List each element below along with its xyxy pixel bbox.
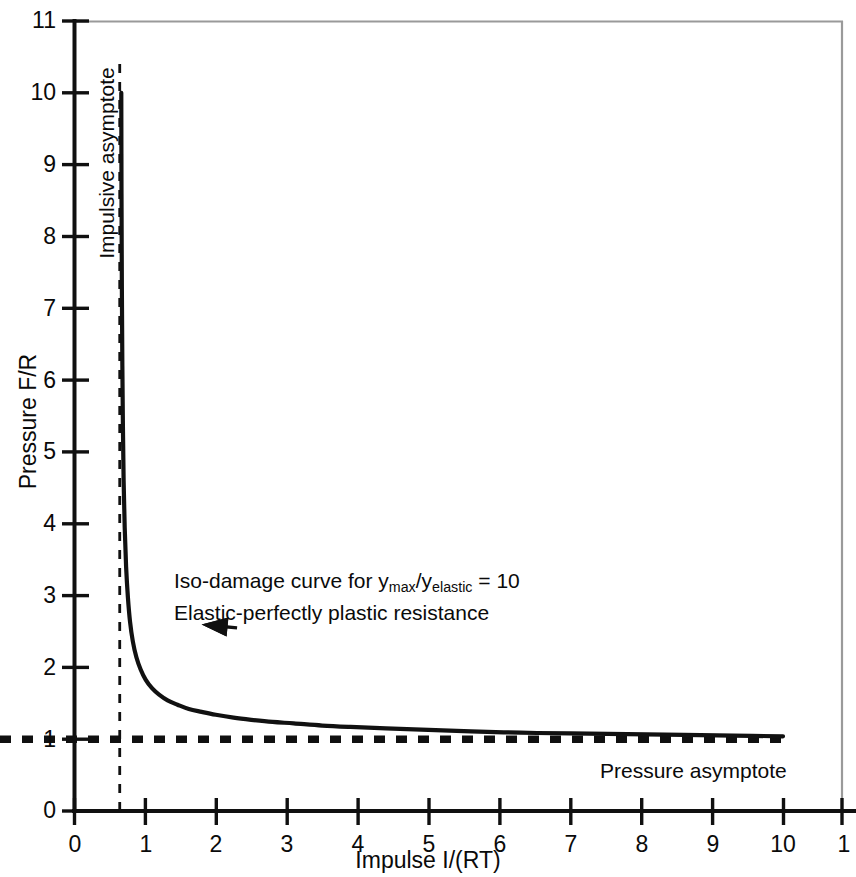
iso-damage-curve bbox=[121, 93, 783, 737]
plot-canvas bbox=[0, 0, 856, 877]
x-tick-label: 9 bbox=[693, 833, 733, 856]
pressure-asymptote-label: Pressure asymptote bbox=[600, 758, 787, 784]
iso-damage-line1-sub1: max bbox=[389, 579, 416, 595]
iso-damage-line1-prefix: Iso-damage curve for y bbox=[174, 569, 389, 592]
x-axis-title: Impulse I/(RT) bbox=[318, 847, 538, 874]
y-axis-title: Pressure F/R bbox=[15, 332, 42, 512]
x-tick-label: 3 bbox=[267, 833, 307, 856]
y-tick-label: 1 bbox=[22, 728, 56, 751]
y-tick-label: 8 bbox=[22, 225, 56, 248]
iso-damage-line1-slash: /y bbox=[416, 569, 432, 592]
impulsive-asymptote-label: Impulsive asymptote bbox=[94, 48, 120, 278]
iso-damage-label-line1: Iso-damage curve for ymax/yelastic = 10 bbox=[174, 569, 520, 592]
y-tick-label: 0 bbox=[22, 799, 56, 822]
x-tick-label: 0 bbox=[55, 833, 95, 856]
x-tick-label: 7 bbox=[551, 833, 591, 856]
y-tick-label: 4 bbox=[22, 512, 56, 535]
y-tick-label: 3 bbox=[22, 584, 56, 607]
y-tick-label: 7 bbox=[22, 297, 56, 320]
y-tick-label: 2 bbox=[22, 656, 56, 679]
y-tick-label: 10 bbox=[22, 81, 56, 104]
x-tick-label: 1 bbox=[126, 833, 166, 856]
iso-damage-line1-sub2: elastic bbox=[432, 579, 472, 595]
iso-damage-chart: 11 10 9 8 7 6 5 4 3 2 1 0 0 1 2 3 4 5 6 … bbox=[0, 0, 856, 877]
x-tick-label: 1 bbox=[824, 833, 856, 856]
y-tick-label: 11 bbox=[22, 9, 56, 32]
x-tick-label: 2 bbox=[196, 833, 236, 856]
iso-damage-label: Iso-damage curve for ymax/yelastic = 10 … bbox=[174, 568, 520, 626]
x-tick-label: 8 bbox=[622, 833, 662, 856]
iso-damage-label-line2: Elastic-perfectly plastic resistance bbox=[174, 600, 520, 626]
y-tick-label: 9 bbox=[22, 153, 56, 176]
x-tick-label: 10 bbox=[763, 833, 803, 856]
iso-damage-line1-suffix: = 10 bbox=[473, 569, 520, 592]
